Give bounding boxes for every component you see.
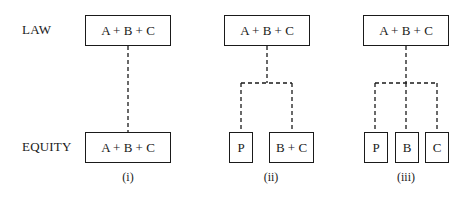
equity-box-iii-p: P xyxy=(364,132,388,163)
law-box-iii: A + B + C xyxy=(363,15,449,46)
caption-i: (i) xyxy=(108,170,148,185)
equity-box-iii-b: B xyxy=(395,132,419,163)
equity-box-i: A + B + C xyxy=(85,132,171,163)
caption-ii: (ii) xyxy=(251,170,291,185)
equity-box-ii-p: P xyxy=(229,132,253,163)
equity-box-iii-c: C xyxy=(425,132,449,163)
law-box-i: A + B + C xyxy=(85,15,171,46)
law-box-ii: A + B + C xyxy=(224,15,310,46)
equity-box-ii-bc: B + C xyxy=(269,132,314,163)
caption-iii: (iii) xyxy=(386,170,426,185)
